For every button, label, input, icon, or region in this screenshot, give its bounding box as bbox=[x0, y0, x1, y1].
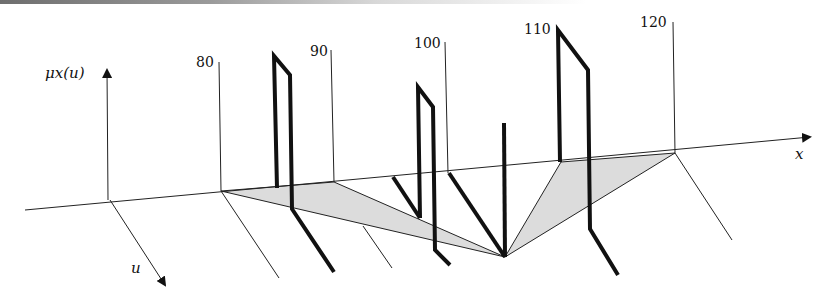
diagram-canvas: μx(u) x u 80 90 100 110 120 bbox=[0, 0, 838, 304]
membership-line-110 bbox=[558, 30, 618, 275]
depth-line-80 bbox=[221, 191, 279, 278]
tick-label-80: 80 bbox=[196, 54, 214, 70]
tick-line-90 bbox=[331, 50, 334, 182]
tick-label-110: 110 bbox=[524, 21, 551, 37]
membership-peak-line bbox=[504, 123, 505, 257]
depth-line-120 bbox=[675, 153, 732, 240]
tick-line-80 bbox=[219, 62, 221, 191]
u-axis-label: u bbox=[131, 259, 141, 277]
tick-label-120: 120 bbox=[640, 14, 667, 30]
mu-axis bbox=[107, 70, 108, 200]
tick-line-120 bbox=[673, 22, 675, 153]
x-axis-label: x bbox=[795, 145, 804, 163]
tick-line-100 bbox=[445, 42, 448, 173]
tick-label-90: 90 bbox=[310, 43, 328, 59]
tick-label-100: 100 bbox=[414, 35, 441, 51]
depth-line-90 bbox=[363, 226, 392, 268]
mu-axis-label: μx(u) bbox=[45, 64, 85, 82]
membership-line-80-front bbox=[274, 56, 334, 272]
